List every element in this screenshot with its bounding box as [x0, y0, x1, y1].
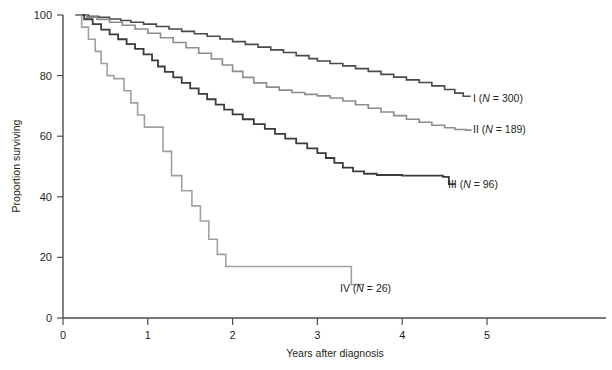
series-label-i: I (N = 300) — [473, 92, 523, 104]
x-tick-label: 3 — [314, 329, 320, 341]
x-tick-label: 1 — [145, 329, 151, 341]
y-tick-label: 0 — [46, 312, 52, 324]
series-label-iii: III (N = 96) — [448, 178, 498, 190]
y-tick-label: 40 — [40, 191, 52, 203]
x-tick-label: 0 — [60, 329, 66, 341]
y-axis-ticks: 020406080100 — [34, 9, 63, 324]
survival-chart-figure: 020406080100 012345 I (N = 300)II (N = 1… — [0, 0, 612, 370]
series-labels: I (N = 300)II (N = 189)III (N = 96)IV (N… — [340, 92, 526, 294]
series-label-iv: IV (N = 26) — [340, 282, 391, 294]
survival-curve-iv — [76, 15, 364, 285]
series-label-ii: II (N = 189) — [473, 123, 526, 135]
y-tick-label: 20 — [40, 251, 52, 263]
y-tick-label: 100 — [34, 9, 52, 21]
survival-curve-iii — [76, 15, 455, 185]
x-axis-ticks: 012345 — [60, 318, 490, 341]
plot-canvas: 020406080100 012345 I (N = 300)II (N = 1… — [0, 0, 612, 370]
x-tick-label: 5 — [484, 329, 490, 341]
x-tick-label: 2 — [230, 329, 236, 341]
y-tick-label: 80 — [40, 70, 52, 82]
survival-curves — [76, 15, 472, 285]
y-tick-label: 60 — [40, 130, 52, 142]
y-axis-title: Proportion surviving — [10, 119, 22, 212]
survival-curve-ii — [76, 15, 472, 130]
x-axis-title: Years after diagnosis — [286, 347, 384, 359]
x-tick-label: 4 — [399, 329, 405, 341]
